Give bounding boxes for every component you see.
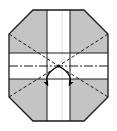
center-point — [57, 65, 60, 68]
fold-diagram-figure — [0, 0, 117, 131]
fold-diagram-canvas — [0, 0, 117, 131]
